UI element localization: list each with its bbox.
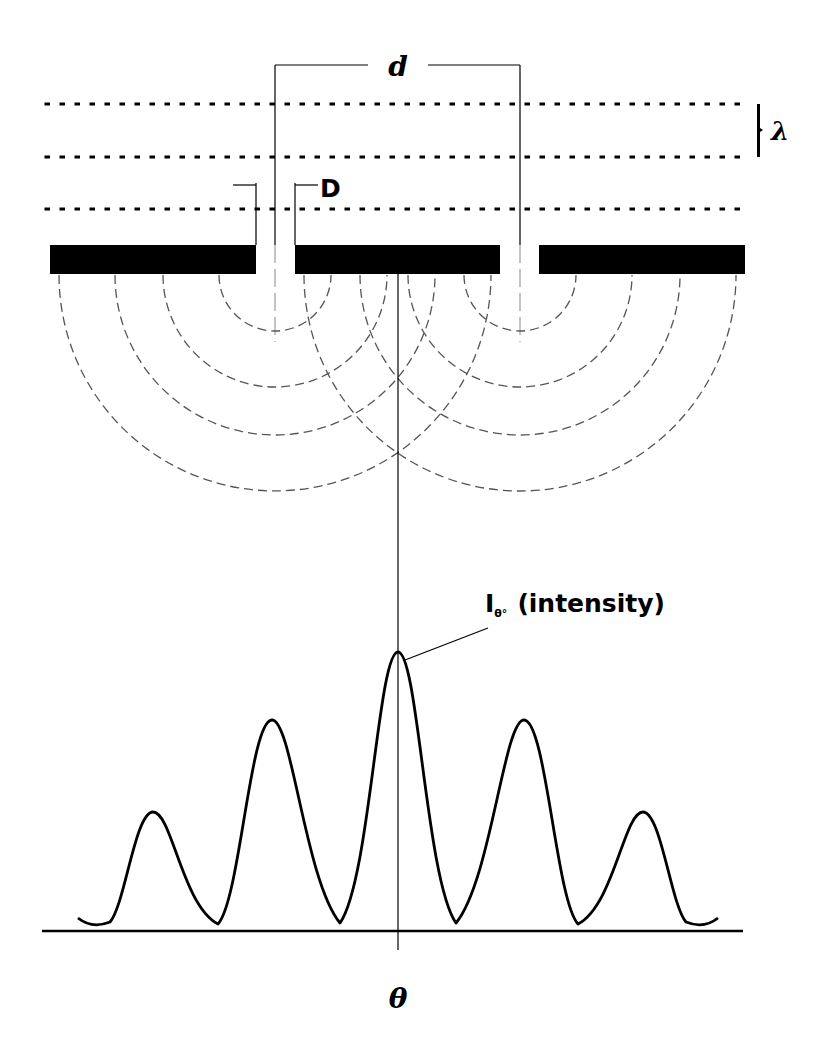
barrier-right — [539, 245, 745, 274]
intensity-leader-line — [405, 628, 488, 660]
intensity-text: (intensity) — [517, 589, 665, 618]
wavelength-marker: λ — [757, 104, 789, 157]
slit-barrier — [50, 245, 745, 274]
slit-separation-label: d — [388, 50, 408, 83]
slit-separation-marker — [275, 65, 520, 245]
double-slit-diagram: λ d D Iθ°(int — [0, 0, 834, 1055]
intensity-symbol: I — [485, 589, 494, 618]
svg-text:Iθ°(intensity): Iθ°(intensity) — [485, 589, 665, 620]
intensity-label: Iθ°(intensity) — [405, 589, 665, 660]
wavelength-label: λ — [770, 116, 789, 146]
angle-label: θ — [389, 982, 408, 1015]
intensity-subscript: θ° — [494, 607, 507, 620]
barrier-left — [50, 245, 256, 274]
barrier-middle — [295, 245, 500, 274]
incident-wavefronts — [46, 104, 748, 209]
slit-width-label: D — [320, 174, 341, 203]
brace-icon — [757, 104, 763, 157]
